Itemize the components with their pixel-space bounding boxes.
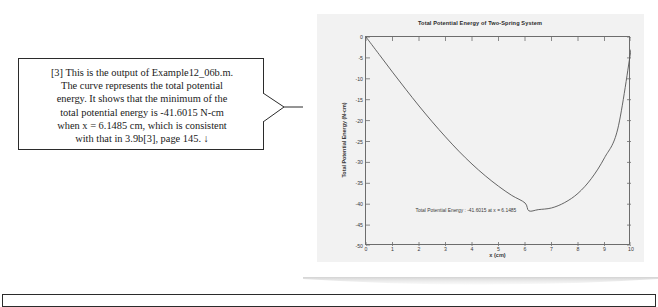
- plot-area: Total Potential Energy : -41.6015 at x =…: [365, 36, 630, 245]
- y-tick-label: -45: [356, 222, 364, 228]
- callout-tail-icon: [262, 92, 304, 124]
- x-tick-label: 0: [365, 246, 368, 252]
- figure-panel: Total Potential Energy of Two-Spring Sys…: [303, 0, 658, 277]
- y-tick-label: 0: [360, 34, 363, 40]
- y-tick-label: -5: [358, 55, 363, 61]
- minimum-annotation: Total Potential Energy : -41.6015 at x =…: [416, 208, 517, 213]
- x-tick-label: 7: [550, 246, 553, 252]
- y-axis-label: Total Potential Energy (N-cm): [341, 102, 347, 177]
- y-tick-label: -30: [356, 159, 364, 165]
- chart-title: Total Potential Energy of Two-Spring Sys…: [320, 20, 640, 26]
- y-tick-label: -25: [356, 139, 364, 145]
- callout-text: [3] This is the output of Example12_06b.…: [19, 59, 265, 151]
- x-tick-label: 4: [471, 246, 474, 252]
- y-tick-label: -50: [356, 243, 364, 249]
- bottom-border-box: [2, 294, 656, 307]
- x-tick-label: 10: [628, 246, 634, 252]
- x-tick-label: 1: [391, 246, 394, 252]
- y-tick-label: -35: [356, 180, 364, 186]
- y-tick-label: -10: [356, 76, 364, 82]
- x-tick-label: 9: [603, 246, 606, 252]
- x-axis-label: x (cm): [365, 252, 630, 258]
- y-tick-label: -40: [356, 201, 364, 207]
- callout-box: [3] This is the output of Example12_06b.…: [18, 58, 264, 150]
- slide-page: [3] This is the output of Example12_06b.…: [0, 0, 658, 307]
- x-tick-label: 8: [577, 246, 580, 252]
- matlab-figure: Total Potential Energy of Two-Spring Sys…: [320, 14, 640, 258]
- x-tick-label: 3: [444, 246, 447, 252]
- x-tick-label: 2: [418, 246, 421, 252]
- y-tick-label: -20: [356, 118, 364, 124]
- x-tick-label: 6: [524, 246, 527, 252]
- x-tick-label: 5: [497, 246, 500, 252]
- y-tick-label: -15: [356, 97, 364, 103]
- potential-energy-curve: [366, 37, 631, 246]
